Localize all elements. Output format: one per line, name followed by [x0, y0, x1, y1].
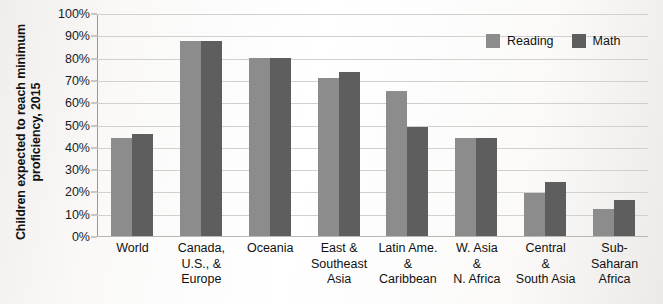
bar-group: [167, 14, 236, 236]
bar-math: [614, 200, 635, 236]
y-tick-label: 60%: [65, 96, 97, 110]
bar-group: [98, 14, 167, 236]
bar-group: [373, 14, 442, 236]
x-axis-category-labels: WorldCanada, U.S., & EuropeOceaniaEast &…: [98, 241, 649, 303]
bar-group: [236, 14, 305, 236]
x-axis-label: World: [98, 241, 167, 257]
legend-item: Math: [572, 34, 621, 48]
y-tick-label: 10%: [65, 208, 97, 222]
legend-label: Math: [593, 34, 621, 48]
bar-math: [270, 58, 291, 236]
legend-swatch-icon: [486, 34, 500, 48]
bar-reading: [386, 91, 407, 236]
y-tick-label: 80%: [65, 52, 97, 66]
y-tick-label: 70%: [65, 74, 97, 88]
x-axis-label: Latin Ame. & Caribbean: [374, 241, 443, 288]
x-axis-line: [97, 236, 648, 237]
x-axis-label: Canada, U.S., & Europe: [167, 241, 236, 288]
x-axis-label: East & Southeast Asia: [305, 241, 374, 288]
bar-reading: [318, 78, 339, 236]
bar-reading: [180, 41, 201, 236]
legend-label: Reading: [507, 34, 554, 48]
bar-math: [339, 72, 360, 236]
x-axis-label: Oceania: [236, 241, 305, 257]
y-tick-label: 50%: [65, 119, 97, 133]
legend-item: Reading: [486, 34, 554, 48]
bar-chart: Children expected to reach minimum profi…: [0, 0, 663, 304]
bar-reading: [455, 138, 476, 236]
y-axis-title: Children expected to reach minimum profi…: [9, 14, 49, 250]
chart-legend: ReadingMath: [486, 34, 620, 48]
y-tick-label: 0%: [72, 230, 97, 244]
y-tick-label: 30%: [65, 163, 97, 177]
y-tick-label: 20%: [65, 185, 97, 199]
x-axis-label: Central & South Asia: [511, 241, 580, 288]
bar-group: [304, 14, 373, 236]
x-axis-label: W. Asia & N. Africa: [442, 241, 511, 288]
bar-math: [476, 138, 497, 236]
x-axis-label: Sub- Saharan Africa: [580, 241, 649, 288]
y-tick-label: 40%: [65, 141, 97, 155]
bar-reading: [111, 138, 132, 236]
bar-math: [132, 134, 153, 236]
bar-math: [407, 127, 428, 236]
bar-math: [201, 41, 222, 236]
y-tick-label: 100%: [58, 7, 97, 21]
bar-math: [545, 182, 566, 236]
bar-reading: [249, 58, 270, 236]
y-tick-label: 90%: [65, 29, 97, 43]
bar-reading: [593, 209, 614, 236]
legend-swatch-icon: [572, 34, 586, 48]
bar-reading: [524, 193, 545, 236]
